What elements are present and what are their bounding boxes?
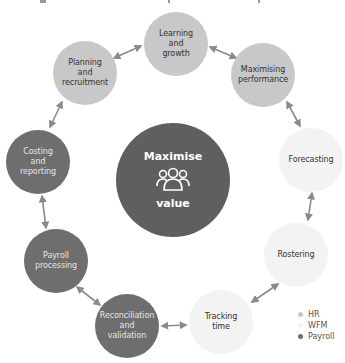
- legend-item-payroll: Payroll: [298, 331, 335, 342]
- center-subtitle: value: [156, 197, 190, 210]
- node-costing-and-reporting: Costing and reporting: [6, 130, 70, 194]
- node-label: Tracking time: [205, 312, 238, 332]
- node-label: Learning and growth: [159, 29, 193, 59]
- legend-label: WFM: [308, 320, 327, 331]
- legend-item-hr: HR: [298, 309, 335, 320]
- node-label: Forecasting: [288, 155, 333, 165]
- node-maximising-performance: Maximising performance: [231, 43, 295, 107]
- wfm-swatch-icon: [298, 323, 303, 328]
- legend-label: Payroll: [308, 331, 335, 342]
- legend-item-wfm: WFM: [298, 320, 335, 331]
- node-forecasting: Forecasting: [279, 128, 343, 192]
- node-label: Reconciliation and validation: [100, 311, 154, 341]
- node-label: Payroll processing: [35, 251, 77, 271]
- legend: HR WFM Payroll: [298, 309, 335, 342]
- node-label: Planning and recruitment: [62, 58, 108, 88]
- center-node-maximise-value: Maximise value: [116, 123, 230, 237]
- node-payroll-processing: Payroll processing: [24, 229, 88, 293]
- node-rostering: Rostering: [264, 223, 328, 287]
- node-label: Maximising performance: [238, 65, 288, 85]
- node-planning-and-recruitment: Planning and recruitment: [53, 41, 117, 105]
- people-group-icon: [156, 167, 190, 194]
- hr-swatch-icon: [298, 312, 303, 317]
- node-learning-and-growth: Learning and growth: [144, 12, 208, 76]
- node-label: Costing and reporting: [20, 147, 56, 177]
- center-title: Maximise: [144, 150, 202, 163]
- node-tracking-time: Tracking time: [189, 290, 253, 354]
- node-reconciliation-and-validation: Reconciliation and validation: [95, 294, 159, 358]
- payroll-swatch-icon: [298, 334, 303, 339]
- node-label: Rostering: [277, 250, 314, 260]
- legend-label: HR: [308, 309, 320, 320]
